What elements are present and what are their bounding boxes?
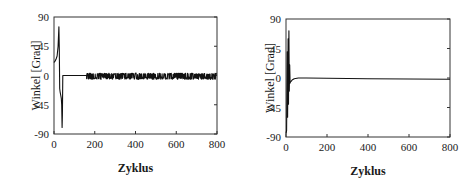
left-x-tick-label: 600 (168, 138, 185, 150)
right-chart-panel: 90450-45-90 0200400600800 Zyklus Winkel … (263, 13, 459, 178)
chart-figure: 90450-45-90 0200400600800 Zyklus Winkel … (0, 0, 470, 183)
left-y-axis-title: Winkel [Grad] (29, 41, 43, 111)
right-y-axis-title: Winkel [Grad] (263, 43, 277, 113)
left-y-tick-label: 0 (44, 70, 50, 82)
right-x-tick-label: 400 (360, 141, 377, 153)
left-x-axis-title: Zyklus (118, 161, 154, 175)
right-x-axis-title: Zyklus (350, 164, 386, 178)
right-y-tick-label: 90 (270, 13, 282, 25)
left-x-tick-label: 200 (87, 138, 104, 150)
left-y-tick-label: 90 (38, 11, 50, 23)
left-series-line (54, 27, 217, 128)
left-y-tick-label: -90 (34, 128, 49, 140)
right-y-ticks: 90450-45-90 (266, 13, 450, 143)
right-x-tick-label: 200 (319, 141, 336, 153)
right-x-tick-label: 800 (442, 141, 459, 153)
right-x-tick-label: 0 (283, 141, 289, 153)
left-x-tick-label: 800 (209, 138, 226, 150)
right-y-tick-label: -90 (266, 131, 281, 143)
right-x-tick-label: 600 (401, 141, 418, 153)
left-chart-panel: 90450-45-90 0200400600800 Zyklus Winkel … (29, 11, 226, 175)
right-series-line (286, 31, 450, 134)
left-x-tick-label: 400 (127, 138, 144, 150)
left-x-tick-label: 0 (51, 138, 57, 150)
